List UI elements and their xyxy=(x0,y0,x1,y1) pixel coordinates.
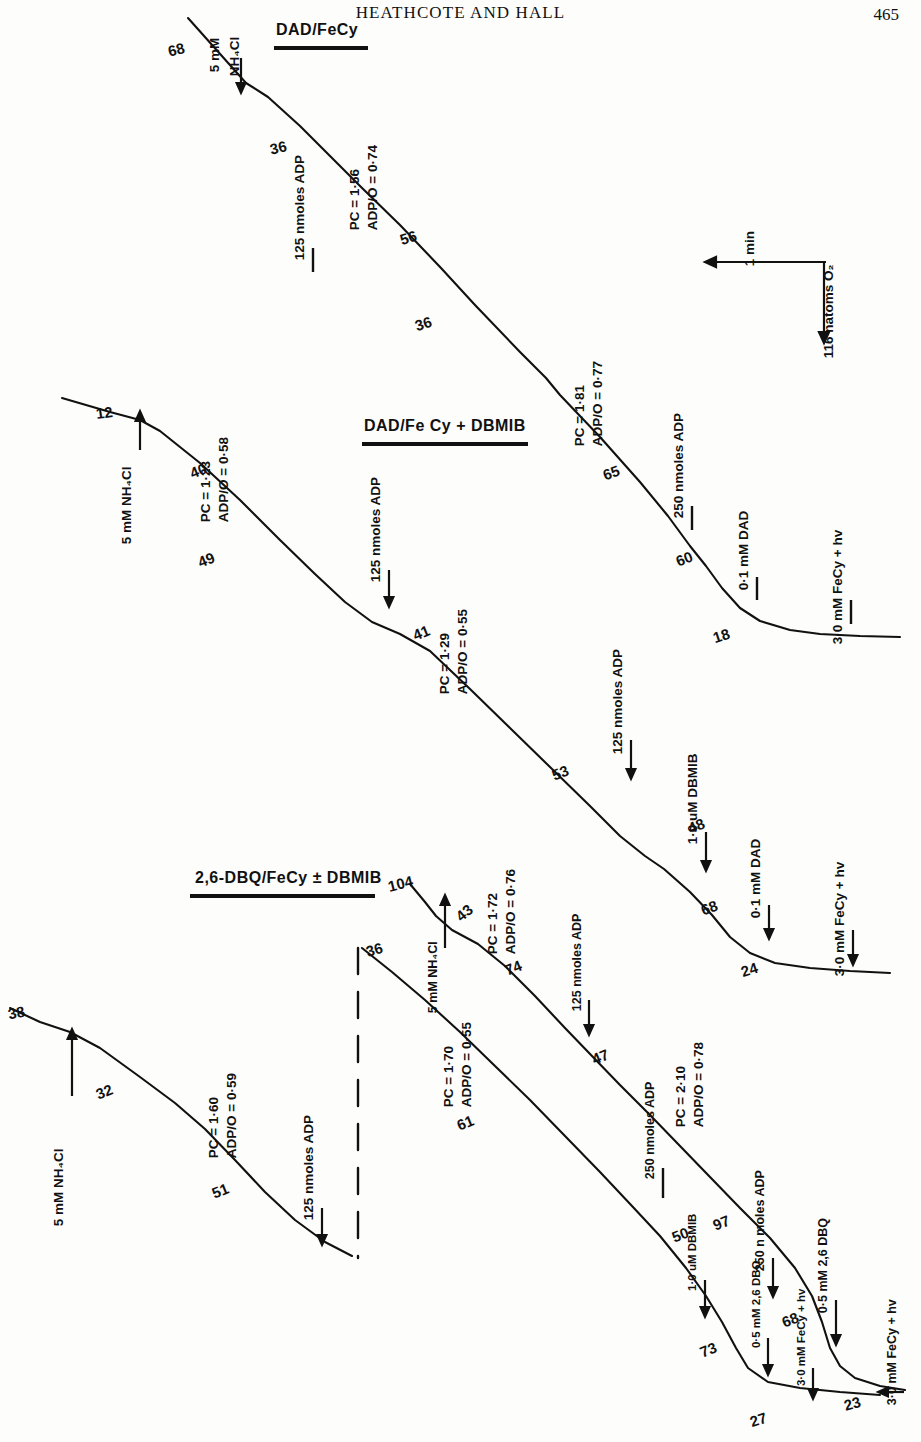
pc-ratio: PC = 2·10 xyxy=(674,1066,688,1127)
rate-value: 36 xyxy=(268,138,288,157)
rate-value: 38 xyxy=(7,1003,27,1022)
addition-arrows xyxy=(68,58,905,1399)
addition-label: 1·0 uM DBMIB xyxy=(686,753,700,844)
oxygen-electrode-traces xyxy=(0,0,921,1442)
adpo-ratio: ADP/O = 0·59 xyxy=(225,1073,239,1158)
adpo-ratio: ADP/O = 0·58 xyxy=(217,437,231,522)
addition-label: 0·1 mM DAD xyxy=(737,511,751,591)
adpo-ratio: ADP/O = 0·55 xyxy=(456,609,470,694)
pc-ratio: PC = 1·70 xyxy=(442,1046,456,1107)
trace-dad-fecy-dbmib xyxy=(62,398,890,973)
scale-bar-time-label: 1 min xyxy=(743,231,757,266)
addition-label: 5 mM NH₄Cl xyxy=(120,466,134,544)
addition-label: 5 mM xyxy=(208,38,222,73)
addition-label: 0·5 mM 2,6 DBQ xyxy=(750,1261,762,1349)
adpo-ratio: ADP/O = 0·77 xyxy=(591,361,605,446)
addition-label: 3·0 mM FeCy + hv xyxy=(795,1289,807,1386)
addition-label: 250 nmoles ADP xyxy=(644,1082,657,1180)
adpo-ratio: ADP/O = 0·76 xyxy=(504,869,518,954)
addition-label: 125 nmoles ADP xyxy=(571,914,584,1012)
addition-label: 250 n moles ADP xyxy=(754,1170,767,1271)
section-rule-dad-fecy-dbmib xyxy=(362,442,528,446)
section-rule-dad-fecy xyxy=(274,46,368,50)
section-title-dad-fecy-dbmib: DAD/Fe Cy + DBMIB xyxy=(364,418,526,435)
adpo-ratio: ADP/O = 0·78 xyxy=(692,1042,706,1127)
addition-label: 3·0 mM FeCy + hv xyxy=(833,862,847,976)
pc-ratio: PC = 1·72 xyxy=(486,893,500,954)
addition-label: 125 nmoles ADP xyxy=(369,477,383,582)
adpo-ratio: ADP/O = 0·55 xyxy=(460,1022,474,1107)
addition-label: 5 mM NH₄Cl xyxy=(427,941,440,1013)
addition-label: 5 mM NH₄Cl xyxy=(52,1148,66,1226)
rate-value: 12 xyxy=(95,404,114,422)
scale-bar-oxygen-label: 116 natoms O₂ xyxy=(822,264,836,358)
addition-label: 0·5 mM 2,6 DBQ xyxy=(817,1218,830,1313)
trace-dbq-fecy-upper xyxy=(410,884,905,1390)
addition-label: 3·0 mM FeCy + hv xyxy=(831,530,845,644)
pc-ratio: PC = 1·81 xyxy=(573,385,587,446)
adpo-ratio: ADP/O = 0·74 xyxy=(366,145,380,230)
addition-label: 3·0 mM FeCy + hv xyxy=(886,1299,899,1405)
section-title-dbq-fecy-dbmib: 2,6-DBQ/FeCy ± DBMIB xyxy=(195,870,382,887)
trace-dad-fecy xyxy=(188,18,900,637)
addition-label: 1·0 uM DBMIB xyxy=(686,1214,699,1291)
addition-label: 125 nmoles ADP xyxy=(302,1115,316,1220)
section-title-dad-fecy: DAD/FeCy xyxy=(276,22,358,39)
addition-label: 125 nmoles ADP xyxy=(611,649,625,754)
pc-ratio: PC = 1·29 xyxy=(438,633,452,694)
pc-ratio: PC = 1·23 xyxy=(199,461,213,522)
figure-page: HEATHCOTE AND HALL 465 xyxy=(0,0,921,1442)
addition-label: 250 nmoles ADP xyxy=(672,413,686,518)
pc-ratio: PC = 1·60 xyxy=(207,1097,221,1158)
addition-label: NH₄Cl xyxy=(228,37,242,76)
addition-label: 0·1 mM DAD xyxy=(749,839,763,919)
scale-bar xyxy=(705,257,829,343)
pc-ratio: PC = 1·56 xyxy=(348,169,362,230)
addition-label: 125 nmoles ADP xyxy=(293,155,307,260)
section-rule-dbq-fecy-dbmib xyxy=(190,894,375,898)
